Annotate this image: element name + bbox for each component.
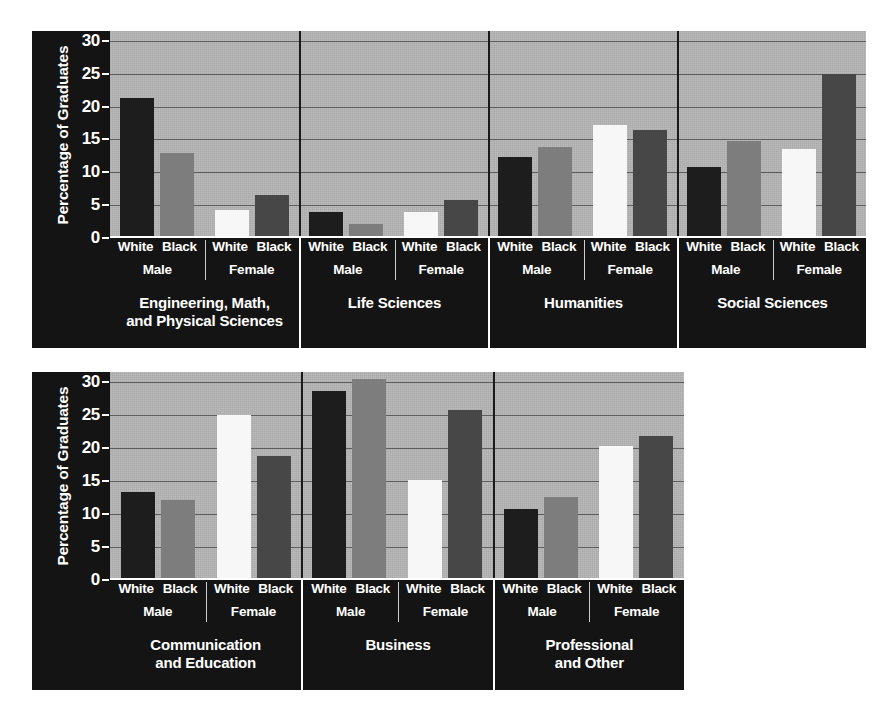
field-of-study-label: Communicationand Education	[110, 636, 301, 673]
field-of-study-label: Life Sciences	[301, 294, 488, 312]
bar	[448, 410, 482, 580]
y-axis-tick-label: 25	[82, 64, 100, 84]
sex-label: Male	[143, 604, 172, 619]
y-axis-title: Percentage of Graduates	[54, 40, 72, 230]
chart-panel-top: Percentage of Graduates051015202530White…	[32, 31, 866, 348]
bar	[255, 195, 289, 238]
race-label: White	[118, 581, 153, 596]
plot-area	[110, 372, 684, 580]
race-label: White	[214, 581, 249, 596]
race-label: White	[591, 239, 626, 254]
bar	[352, 379, 386, 580]
race-label: Black	[353, 239, 388, 254]
y-axis-tick-label: 25	[82, 405, 100, 425]
sex-label: Male	[333, 262, 362, 277]
race-label: White	[308, 239, 343, 254]
y-axis-tick-label: 30	[82, 31, 100, 51]
sub-group-row: WhiteBlackMaleWhiteBlackFemale	[110, 580, 301, 632]
bar	[215, 210, 249, 238]
race-label: Black	[542, 239, 577, 254]
y-axis-tick-label: 20	[82, 97, 100, 117]
race-label: Black	[163, 581, 198, 596]
sub-group: WhiteBlackMale	[490, 238, 584, 290]
race-label-pair: WhiteBlack	[214, 581, 293, 596]
x-axis-group: WhiteBlackMaleWhiteBlackFemaleHumanities	[488, 238, 677, 348]
chart-panel-bottom: Percentage of Graduates051015202530White…	[32, 372, 684, 690]
sub-group: WhiteBlackFemale	[205, 238, 300, 290]
race-label: White	[503, 581, 538, 596]
gridline	[110, 481, 684, 482]
field-of-study-label: Social Sciences	[679, 294, 866, 312]
race-label: Black	[824, 239, 859, 254]
sex-label: Male	[711, 262, 740, 277]
race-label-pair: WhiteBlack	[406, 581, 485, 596]
sex-label: Female	[608, 262, 653, 277]
gridline	[110, 448, 684, 449]
race-label-pair: WhiteBlack	[308, 239, 387, 254]
sub-group: WhiteBlackFemale	[584, 238, 678, 290]
x-axis-group: WhiteBlackMaleWhiteBlackFemaleBusiness	[301, 580, 492, 690]
sub-group: WhiteBlackMale	[301, 238, 395, 290]
sex-label: Female	[231, 604, 276, 619]
race-label-pair: WhiteBlack	[311, 581, 390, 596]
sub-group-row: WhiteBlackMaleWhiteBlackFemale	[679, 238, 866, 290]
plot-area	[110, 31, 866, 238]
sex-label: Male	[522, 262, 551, 277]
race-label: White	[118, 239, 153, 254]
bar	[408, 480, 442, 580]
bar	[217, 415, 251, 580]
field-of-study-label-line: Humanities	[492, 294, 675, 312]
y-axis-tick-label: 20	[82, 438, 100, 458]
x-axis-label-band: WhiteBlackMaleWhiteBlackFemaleEngineerin…	[110, 238, 866, 348]
field-of-study-label: Humanities	[490, 294, 677, 312]
x-axis-label-band: WhiteBlackMaleWhiteBlackFemaleCommunicat…	[110, 580, 684, 690]
y-axis-tick-label: 0	[91, 570, 100, 590]
field-of-study-label-line: Social Sciences	[681, 294, 864, 312]
sub-group: WhiteBlackFemale	[398, 580, 493, 632]
bar	[687, 167, 721, 238]
sub-group: WhiteBlackFemale	[773, 238, 867, 290]
group-separator	[488, 31, 490, 238]
x-axis-group: WhiteBlackMaleWhiteBlackFemaleEngineerin…	[110, 238, 299, 348]
bar	[161, 500, 195, 580]
race-label: White	[497, 239, 532, 254]
field-of-study-label: Professionaland Other	[495, 636, 684, 673]
gridline	[110, 547, 684, 548]
bar	[639, 436, 673, 580]
bar	[593, 125, 627, 238]
group-separator	[301, 372, 303, 580]
race-label: Black	[356, 581, 391, 596]
field-of-study-label-line: Engineering, Math,	[112, 294, 297, 312]
race-label: Black	[258, 581, 293, 596]
sub-group: WhiteBlackMale	[679, 238, 773, 290]
bar	[727, 141, 761, 238]
race-label: Black	[635, 239, 670, 254]
x-axis-group: WhiteBlackMaleWhiteBlackFemaleLife Scien…	[299, 238, 488, 348]
field-of-study-label: Business	[303, 636, 492, 654]
field-of-study-label-line: Life Sciences	[303, 294, 486, 312]
race-label: White	[311, 581, 346, 596]
group-separator	[677, 31, 679, 238]
sex-label: Female	[229, 262, 274, 277]
y-axis-tick-label: 5	[91, 537, 100, 557]
race-label: White	[406, 581, 441, 596]
y-axis: Percentage of Graduates051015202530	[32, 31, 110, 348]
bar	[444, 200, 478, 238]
y-axis-tick-label: 10	[82, 162, 100, 182]
bar	[312, 391, 346, 581]
y-axis: Percentage of Graduates051015202530	[32, 372, 110, 690]
sub-group-row: WhiteBlackMaleWhiteBlackFemale	[490, 238, 677, 290]
y-axis-tick-label: 15	[82, 471, 100, 491]
sex-label: Female	[419, 262, 464, 277]
sub-group: WhiteBlackMale	[303, 580, 398, 632]
race-label: White	[212, 239, 247, 254]
bar	[599, 446, 633, 580]
sub-group: WhiteBlackFemale	[395, 238, 489, 290]
bar	[504, 509, 538, 580]
race-label: Black	[731, 239, 766, 254]
group-separator	[299, 31, 301, 238]
x-axis-group: WhiteBlackMaleWhiteBlackFemaleSocial Sci…	[677, 238, 866, 348]
field-of-study-label-line: Communication	[112, 636, 299, 654]
race-label-pair: WhiteBlack	[497, 239, 576, 254]
field-of-study-label-line: Business	[305, 636, 490, 654]
